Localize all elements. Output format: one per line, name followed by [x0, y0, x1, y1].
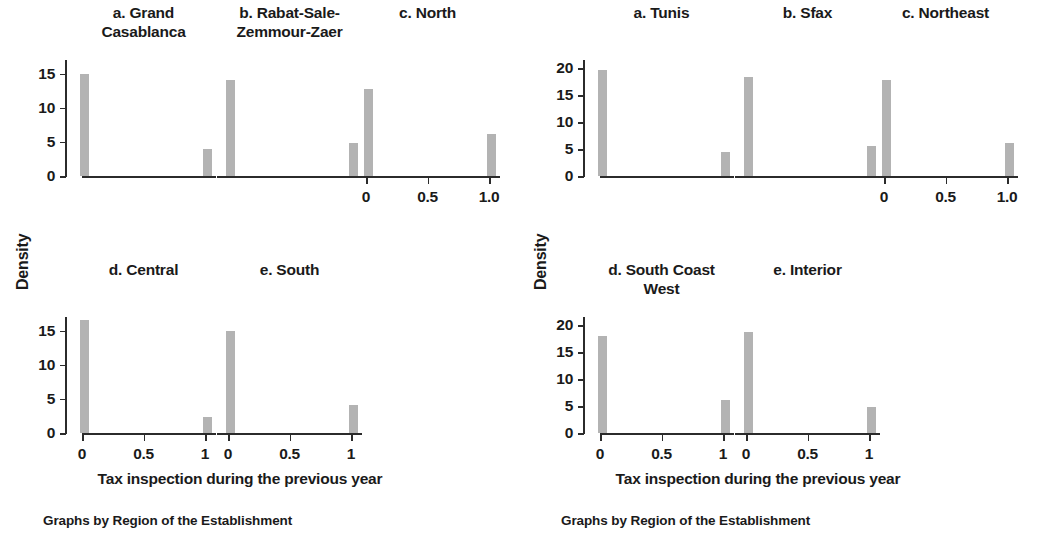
histogram-bar — [203, 149, 212, 176]
x-axis-label: Tax inspection during the previous year — [40, 470, 440, 488]
histogram-bar — [721, 400, 730, 433]
x-axis-tick — [144, 434, 146, 441]
x-axis-line — [735, 176, 880, 178]
x-axis-tick — [1007, 177, 1009, 184]
y-axis-tick-label: 10 — [10, 99, 55, 117]
y-axis-tick — [578, 433, 584, 435]
x-axis-line — [600, 176, 734, 178]
histogram-bar — [598, 336, 607, 433]
histogram-bar — [349, 143, 358, 176]
subplot-title: c. North — [333, 3, 523, 22]
x-axis-tick-label: 0.5 — [260, 445, 320, 463]
histogram-bar — [867, 407, 876, 433]
y-axis-label: Density — [14, 234, 32, 290]
y-axis-label: Density — [532, 234, 550, 290]
histogram-bar — [226, 331, 235, 433]
x-axis-line — [82, 176, 216, 178]
y-axis-tick-label: 0 — [528, 424, 573, 442]
y-axis-tick — [578, 406, 584, 408]
y-axis-tick-label: 0 — [528, 167, 573, 185]
x-axis-tick — [82, 434, 84, 441]
x-axis-tick-label: 1 — [839, 445, 899, 463]
subplot-title: e. South — [195, 260, 385, 279]
y-axis-tick-label: 15 — [10, 322, 55, 340]
x-axis-tick — [290, 434, 292, 441]
x-axis-line — [217, 176, 362, 178]
x-axis-tick — [746, 434, 748, 441]
y-axis-tick — [578, 122, 584, 124]
y-axis-tick — [60, 433, 66, 435]
y-axis-tick-label: 15 — [10, 65, 55, 83]
y-axis-tick — [60, 74, 66, 76]
y-axis-tick-label: 0 — [10, 424, 55, 442]
y-axis-tick — [578, 68, 584, 70]
y-axis-tick-label: 10 — [10, 356, 55, 374]
y-axis-tick — [578, 176, 584, 178]
y-axis-tick-label: 10 — [528, 370, 573, 388]
x-axis-label: Tax inspection during the previous year — [558, 470, 958, 488]
x-axis-tick — [489, 177, 491, 184]
x-axis-tick-label: 0 — [52, 445, 112, 463]
x-axis-tick-label: 0 — [716, 445, 776, 463]
y-axis-line — [65, 60, 67, 177]
histogram-bar — [487, 134, 496, 176]
x-axis-tick — [884, 177, 886, 184]
histogram-bar — [364, 89, 373, 176]
histogram-bar — [867, 146, 876, 176]
figure-morocco: a. Grand Casablanca051015b. Rabat-Sale- … — [0, 0, 519, 545]
x-axis-tick-label: 1.0 — [977, 188, 1037, 206]
histogram-bar — [80, 320, 89, 433]
x-axis-tick-label: 0.5 — [398, 188, 458, 206]
y-axis-tick — [578, 352, 584, 354]
y-axis-line — [583, 317, 585, 434]
y-axis-tick-label: 20 — [528, 59, 573, 77]
y-axis-tick-label: 0 — [10, 167, 55, 185]
x-axis-tick — [869, 434, 871, 441]
x-axis-tick — [946, 177, 948, 184]
y-axis-tick — [578, 149, 584, 151]
x-axis-tick-label: 1 — [321, 445, 381, 463]
x-axis-tick — [228, 434, 230, 441]
histogram-bar — [882, 80, 891, 176]
y-axis-tick-label: 15 — [528, 86, 573, 104]
y-axis-tick-label: 15 — [528, 343, 573, 361]
x-axis-tick-label: 0 — [570, 445, 630, 463]
histogram-bar — [203, 417, 212, 433]
histogram-bar — [744, 332, 753, 433]
figure-caption: Graphs by Region of the Establishment — [43, 513, 292, 528]
x-axis-tick — [366, 177, 368, 184]
x-axis-tick — [205, 434, 207, 441]
y-axis-tick — [60, 399, 66, 401]
histogram-bar — [744, 77, 753, 176]
histogram-bar — [1005, 143, 1014, 176]
x-axis-tick — [428, 177, 430, 184]
figure-caption: Graphs by Region of the Establishment — [561, 513, 810, 528]
x-axis-tick-label: 0.5 — [632, 445, 692, 463]
histogram-bar — [80, 74, 89, 176]
x-axis-tick — [351, 434, 353, 441]
subplot-title: c. Northeast — [851, 3, 1037, 22]
y-axis-tick-label: 5 — [528, 140, 573, 158]
y-axis-tick — [578, 95, 584, 97]
y-axis-tick — [578, 325, 584, 327]
x-axis-tick — [600, 434, 602, 441]
y-axis-tick — [60, 142, 66, 144]
histogram-bar — [226, 80, 235, 176]
y-axis-tick-label: 20 — [528, 316, 573, 334]
figure-tunisia: a. Tunis05101520b. Sfaxc. Northeast00.51… — [518, 0, 1037, 545]
y-axis-line — [65, 317, 67, 434]
x-axis-tick-label: 0 — [198, 445, 258, 463]
y-axis-tick — [60, 331, 66, 333]
x-axis-tick — [662, 434, 664, 441]
histogram-bar — [721, 152, 730, 176]
x-axis-tick-label: 0.5 — [778, 445, 838, 463]
y-axis-tick-label: 5 — [10, 390, 55, 408]
x-axis-tick-label: 1.0 — [459, 188, 519, 206]
x-axis-tick — [808, 434, 810, 441]
histogram-bar — [598, 70, 607, 176]
y-axis-tick — [60, 365, 66, 367]
y-axis-tick — [578, 379, 584, 381]
y-axis-tick-label: 5 — [10, 133, 55, 151]
x-axis-tick-label: 0.5 — [114, 445, 174, 463]
y-axis-tick — [60, 176, 66, 178]
